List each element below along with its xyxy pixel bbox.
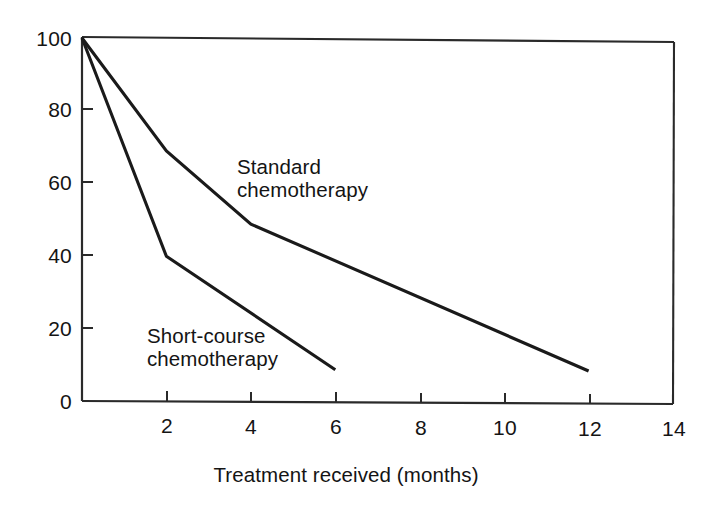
- series-annotation-short-course-line2: chemotherapy: [147, 347, 278, 370]
- data-series-group: [82, 38, 589, 371]
- y-tick-label-20: 20: [16, 317, 72, 341]
- chart-figure: 100 80 60 40 20 0 2 4 6 8 10 12 14 Stand…: [0, 0, 707, 509]
- series-line-standard-chemotherapy: [82, 38, 589, 371]
- x-axis-line: [82, 401, 673, 404]
- y-tick-label-80: 80: [16, 98, 72, 122]
- x-tick-label-4: 4: [227, 415, 275, 439]
- plot-top-border: [82, 37, 674, 42]
- series-annotation-standard-line2: chemotherapy: [237, 178, 368, 201]
- x-tick-label-6: 6: [312, 415, 360, 439]
- x-tick-label-10: 10: [481, 416, 529, 440]
- series-annotation-short-course-line1: Short-course: [147, 324, 278, 347]
- plot-right-border: [673, 42, 674, 404]
- x-axis-title: Treatment received (months): [206, 463, 486, 487]
- series-annotation-short-course-chemotherapy: Short-course chemotherapy: [147, 324, 278, 370]
- series-annotation-standard-line1: Standard: [237, 155, 368, 178]
- y-tick-label-0: 0: [16, 390, 72, 414]
- y-tick-label-60: 60: [16, 171, 72, 195]
- y-tick-label-40: 40: [16, 244, 72, 268]
- series-annotation-standard-chemotherapy: Standard chemotherapy: [237, 155, 368, 201]
- x-tick-label-12: 12: [566, 417, 614, 441]
- y-axis-ticks: [82, 109, 93, 328]
- x-tick-label-8: 8: [397, 416, 445, 440]
- x-tick-label-2: 2: [143, 414, 191, 438]
- y-tick-label-100: 100: [16, 27, 72, 51]
- x-tick-label-14: 14: [650, 417, 698, 441]
